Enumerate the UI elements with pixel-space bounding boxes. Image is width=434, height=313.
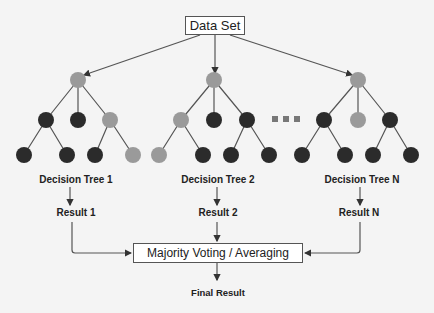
result-n: Result N [339, 207, 380, 218]
tree-2-label: Decision Tree 2 [181, 174, 254, 185]
ellipsis-icon [272, 116, 300, 122]
tree-n [294, 72, 419, 163]
tree-n-label: Decision Tree N [324, 174, 399, 185]
result-1: Result 1 [57, 207, 96, 218]
tree-1 [16, 72, 141, 163]
data-set-node: Data Set [185, 16, 245, 35]
final-result: Final Result [191, 287, 245, 298]
tree-1-label: Decision Tree 1 [39, 174, 112, 185]
result-2: Result 2 [199, 207, 238, 218]
arrow-dataset-tree1 [84, 35, 200, 75]
tree-2 [151, 72, 277, 163]
aggregator-node: Majority Voting / Averaging [133, 243, 303, 263]
diagram-canvas [0, 0, 434, 313]
arrow-dataset-treeN [230, 35, 352, 75]
